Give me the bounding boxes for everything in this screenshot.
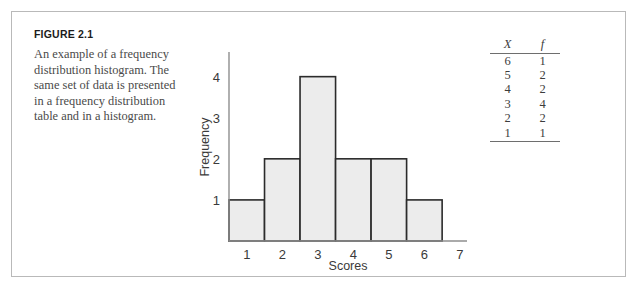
freq-table-body: 615242342211 bbox=[490, 54, 560, 142]
cell-x: 3 bbox=[490, 97, 525, 111]
table-row: 34 bbox=[490, 97, 560, 111]
y-axis-title: Frequency bbox=[198, 117, 212, 177]
x-tick-label: 6 bbox=[421, 247, 428, 262]
y-tick-label: 1 bbox=[213, 193, 220, 208]
x-tick-label: 2 bbox=[279, 247, 286, 262]
freq-table-element: X f 615242342211 bbox=[490, 37, 560, 142]
table-row: 42 bbox=[490, 83, 560, 97]
x-tick-label: 7 bbox=[456, 247, 463, 262]
x-tick-label: 1 bbox=[243, 247, 250, 262]
cell-f: 1 bbox=[525, 126, 560, 141]
cell-f: 2 bbox=[525, 112, 560, 126]
histogram-svg: 1234 1234567 Scores Frequency bbox=[198, 46, 478, 276]
frequency-distribution-table: X f 615242342211 bbox=[490, 37, 568, 142]
y-tick-label: 2 bbox=[213, 152, 220, 167]
table-row: 22 bbox=[490, 112, 560, 126]
table-row: 11 bbox=[490, 126, 560, 141]
histogram-bar bbox=[371, 159, 407, 241]
y-tick-labels: 1234 bbox=[213, 70, 220, 208]
table-row: 61 bbox=[490, 54, 560, 69]
cell-x: 4 bbox=[490, 83, 525, 97]
figure-label: FIGURE 2.1 bbox=[34, 28, 186, 40]
histogram-bar bbox=[300, 77, 336, 241]
table-header-row: X f bbox=[490, 37, 560, 54]
histogram-bar bbox=[407, 200, 443, 241]
caption-block: FIGURE 2.1 An example of a frequency dis… bbox=[34, 28, 186, 125]
histogram-bar bbox=[336, 159, 372, 241]
cell-x: 2 bbox=[490, 112, 525, 126]
cell-x: 6 bbox=[490, 54, 525, 69]
cell-f: 2 bbox=[525, 83, 560, 97]
x-axis-title: Scores bbox=[329, 259, 368, 273]
table-row: 52 bbox=[490, 68, 560, 82]
cell-f: 2 bbox=[525, 68, 560, 82]
x-tick-label: 5 bbox=[385, 247, 392, 262]
x-tick-label: 3 bbox=[314, 247, 321, 262]
figure-caption: An example of a frequency distribution h… bbox=[34, 47, 186, 125]
y-tick-label: 4 bbox=[213, 70, 220, 85]
histogram-bar bbox=[265, 159, 301, 241]
bars-group bbox=[229, 77, 442, 241]
cell-f: 4 bbox=[525, 97, 560, 111]
histogram-bar bbox=[229, 200, 265, 241]
cell-f: 1 bbox=[525, 54, 560, 69]
histogram-chart: 1234 1234567 Scores Frequency bbox=[198, 46, 478, 276]
column-header-f: f bbox=[525, 37, 560, 54]
y-tick-label: 3 bbox=[213, 111, 220, 126]
cell-x: 1 bbox=[490, 126, 525, 141]
cell-x: 5 bbox=[490, 68, 525, 82]
figure-box: FIGURE 2.1 An example of a frequency dis… bbox=[11, 11, 626, 277]
column-header-x: X bbox=[490, 37, 525, 54]
